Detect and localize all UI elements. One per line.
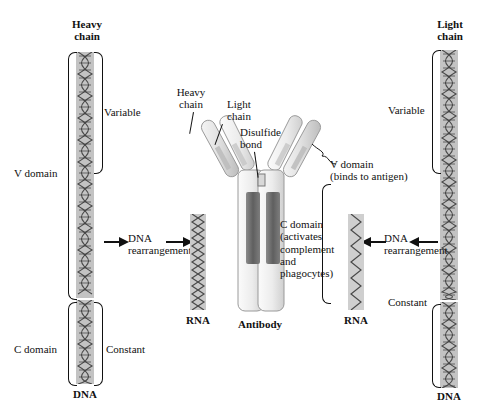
- antibody-disulfide-label: Disulfide bond: [240, 126, 281, 151]
- right-dna-variable-strand: [440, 50, 458, 300]
- right-variable-label: Variable: [388, 104, 425, 116]
- dna-helix-icon: [440, 302, 458, 388]
- antibody-v-domain-label: V domain (binds to antigen): [330, 158, 408, 183]
- heavy-chain-leader: [189, 112, 194, 134]
- figure-canvas: Heavy chain Variable: [0, 0, 502, 415]
- antibody-label: Antibody: [222, 318, 298, 330]
- left-dna-constant-strand: [76, 300, 94, 384]
- right-variable-bracket: [432, 50, 441, 174]
- left-v-domain-label: V domain: [14, 167, 58, 179]
- left-dna-variable-strand: [76, 52, 94, 298]
- right-dna-label: DNA: [420, 390, 478, 402]
- right-rearrangement-label: DNA rearrangement: [384, 232, 448, 257]
- antibody-c-domain-label: C domain (activates complement and phago…: [280, 218, 334, 280]
- v-domain-pointer: [304, 140, 338, 180]
- left-c-domain-bracket: [68, 302, 77, 386]
- disulfide-bond-icon: [258, 174, 265, 186]
- left-constant-bracket: [94, 302, 103, 386]
- right-rna-label: RNA: [328, 314, 384, 326]
- left-chain-title: Heavy chain: [52, 18, 122, 43]
- right-rna-strand: [348, 214, 364, 310]
- left-constant-label: Constant: [106, 343, 145, 355]
- left-variable-label: Variable: [104, 106, 141, 118]
- right-rearrangement-arrow-2: [370, 241, 386, 243]
- left-rearrangement-arrow-1: [104, 241, 120, 243]
- dna-helix-icon: [76, 300, 94, 384]
- right-dna-constant-strand: [440, 302, 458, 388]
- left-variable-bracket: [94, 52, 103, 174]
- left-rearrangement-label: DNA rearrangement: [128, 232, 192, 257]
- antibody-heavy-chain-label: Heavy chain: [168, 86, 214, 111]
- rna-helix-icon: [348, 214, 364, 310]
- right-chain-title: Light chain: [418, 18, 482, 43]
- dna-helix-icon: [440, 50, 458, 300]
- right-constant-bracket: [432, 304, 441, 388]
- antibody-stem: [238, 170, 284, 311]
- left-v-domain-bracket: [68, 52, 77, 300]
- antibody-light-chain-label: Light chain: [218, 98, 260, 123]
- left-rearrangement-arrow-2: [166, 241, 184, 243]
- right-constant-label: Constant: [388, 296, 427, 308]
- dna-helix-icon: [76, 52, 94, 298]
- left-dna-label: DNA: [55, 388, 115, 400]
- left-c-domain-label: C domain: [14, 343, 57, 355]
